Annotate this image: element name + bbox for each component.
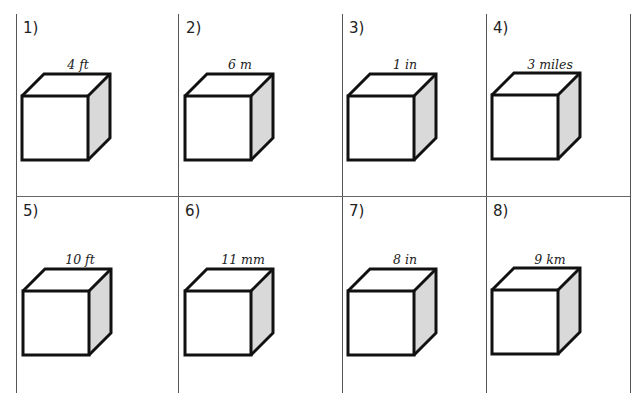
- cube-icon: [348, 74, 438, 162]
- problem-number: 5): [23, 202, 38, 220]
- problem-number: 7): [349, 202, 364, 220]
- problem-number: 3): [349, 19, 364, 37]
- cube-dimension-label: 11 mm: [221, 252, 265, 267]
- cube-icon: [492, 73, 582, 161]
- grid-line: [16, 14, 17, 393]
- cube-dimension-label: 9 km: [534, 252, 565, 267]
- grid-line: [486, 14, 487, 393]
- cube-dimension-label: 3 miles: [527, 57, 573, 72]
- cube-dimension-label: 10 ft: [65, 252, 95, 267]
- grid-line: [342, 14, 343, 393]
- grid-line: [630, 14, 631, 393]
- cube-dimension-label: 8 in: [393, 252, 417, 267]
- problem-number: 2): [186, 19, 201, 37]
- cube-dimension-label: 6 m: [228, 57, 252, 72]
- cube-icon: [22, 74, 112, 162]
- cube-icon: [185, 74, 275, 162]
- cube-dimension-label: 4 ft: [67, 57, 89, 72]
- problem-number: 6): [185, 202, 200, 220]
- grid-line: [178, 14, 179, 393]
- cube-icon: [23, 269, 113, 357]
- grid-line: [16, 196, 630, 197]
- cube-dimension-label: 1 in: [393, 57, 417, 72]
- cube-icon: [348, 269, 438, 357]
- cube-icon: [492, 268, 582, 356]
- problem-number: 8): [493, 202, 508, 220]
- cube-icon: [185, 269, 275, 357]
- problem-number: 4): [493, 19, 508, 37]
- problem-number: 1): [23, 19, 38, 37]
